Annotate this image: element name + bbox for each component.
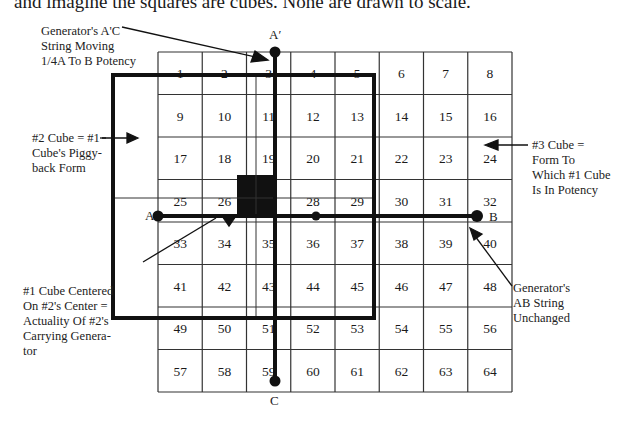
annotation-right: #3 Cube = Form To Which #1 Cube Is In Po… (532, 138, 610, 198)
annotation-line: Generator's A'C (41, 24, 136, 39)
cell-number: 12 (306, 109, 320, 124)
annotation-line: back Form (32, 161, 102, 176)
annotation-line: #3 Cube = (532, 138, 610, 153)
cell-number: 47 (439, 279, 453, 294)
annotation-line: String Moving (41, 39, 136, 54)
cell-number: 13 (350, 109, 364, 124)
annotation-line: Form To (532, 153, 610, 168)
cell-number: 7 (442, 66, 449, 81)
cell-number: 53 (350, 321, 364, 336)
arrow-top-left-head-icon (251, 51, 268, 62)
annotation-left: #2 Cube = #1 Cube's Piggy- back Form (32, 131, 102, 176)
cell-number: 31 (439, 194, 453, 209)
cell-number: 52 (306, 321, 320, 336)
cell-number: 16 (483, 109, 497, 124)
annotation-line: Actuality Of #2's (23, 314, 113, 329)
annotation-bottom-right: Generator's AB String Unchanged (513, 281, 570, 326)
annotation-line: Carrying Genera- (23, 329, 113, 344)
cell-number: 34 (218, 236, 232, 251)
cell-number: 50 (218, 321, 232, 336)
arrow-bottom-right-head-icon (470, 228, 482, 240)
cell-number: 42 (218, 279, 232, 294)
cell-number: 57 (173, 364, 187, 379)
annotation-line: Unchanged (513, 311, 570, 326)
cell-number: 8 (487, 66, 494, 81)
cell-number: 61 (350, 364, 364, 379)
point-b-dot (471, 210, 483, 222)
cell-number: 48 (483, 279, 497, 294)
cell-number: 64 (483, 364, 497, 379)
grid-lines (158, 52, 512, 392)
annotation-line: On #2's Center = (23, 299, 113, 314)
cell-number: 36 (306, 236, 320, 251)
cell-number: 6 (398, 66, 405, 81)
annotation-line: #2 Cube = #1 (32, 131, 102, 146)
annotation-bottom-left: #1 Cube Centered On #2's Center = Actual… (23, 284, 113, 359)
annotation-line: AB String (513, 296, 570, 311)
annotation-line: #1 Cube Centered (23, 284, 113, 299)
arrow-top-left-line (122, 27, 260, 58)
cell-number: 41 (173, 279, 187, 294)
cell-number: 55 (439, 321, 453, 336)
cell-number: 17 (173, 151, 187, 166)
cell-number: 14 (395, 109, 409, 124)
cell-number: 26 (218, 194, 232, 209)
point-a-label: A (145, 208, 154, 224)
arrow-left-head-icon (127, 133, 138, 143)
cell-number: 54 (395, 321, 409, 336)
cell-number: 23 (439, 151, 453, 166)
annotation-line: tor (23, 344, 113, 359)
cell-number: 28 (306, 194, 320, 209)
cell-number: 25 (173, 194, 187, 209)
annotation-line: Generator's (513, 281, 570, 296)
point-c-dot (270, 376, 281, 387)
cell-number: 20 (306, 151, 320, 166)
midpoint-dot (312, 212, 321, 221)
annotation-top-left: Generator's A'C String Moving 1/4A To B … (41, 24, 136, 69)
cell-number: 45 (350, 279, 364, 294)
cell-number: 18 (218, 151, 232, 166)
cell-number: 24 (483, 151, 497, 166)
arrow-right-head-icon (485, 140, 498, 150)
cell-number: 56 (483, 321, 497, 336)
cell-number: 22 (395, 151, 409, 166)
cell-number: 37 (350, 236, 364, 251)
arrow-bottom-left-head-icon (222, 216, 236, 226)
cell-number: 29 (350, 194, 364, 209)
point-a-prime-dot (270, 47, 281, 58)
annotation-line: 1/4A To B Potency (41, 54, 136, 69)
cell-number: 38 (395, 236, 409, 251)
cell-number: 62 (395, 364, 409, 379)
annotation-line: Cube's Piggy- (32, 146, 102, 161)
cell-number: 33 (173, 236, 187, 251)
annotation-line: Which #1 Cube (532, 168, 610, 183)
cell-number: 39 (439, 236, 453, 251)
cell-number: 15 (439, 109, 453, 124)
point-a-prime-label: A′ (269, 27, 281, 43)
cell-number: 58 (218, 364, 232, 379)
cell-number: 32 (483, 194, 497, 209)
point-b-label: B (489, 209, 498, 225)
cell-number: 21 (350, 151, 364, 166)
point-c-label: C (270, 393, 279, 409)
cell-number: 30 (395, 194, 409, 209)
annotation-line: Is In Potency (532, 183, 610, 198)
arrow-bottom-left-line (143, 218, 216, 262)
cell-number: 10 (218, 109, 232, 124)
cell-number: 46 (395, 279, 409, 294)
cell-number: 49 (173, 321, 187, 336)
cell-number: 63 (439, 364, 453, 379)
cell-number: 60 (306, 364, 320, 379)
cell-number: 9 (177, 109, 184, 124)
cell-number: 44 (306, 279, 320, 294)
